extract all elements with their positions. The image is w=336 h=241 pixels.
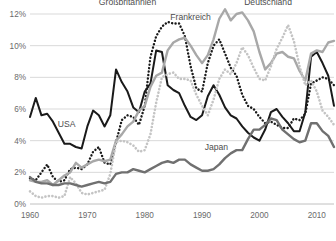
y-tick-label: 6% bbox=[14, 105, 26, 114]
series-label-deutschland: Deutschland bbox=[244, 0, 292, 7]
y-axis-tick-labels: 0%2%4%6%8%10%12% bbox=[10, 10, 26, 209]
series-line-deutschland bbox=[30, 25, 334, 198]
unemployment-rate-chart: 0%2%4%6%8%10%12% 19601970198019902000201… bbox=[0, 0, 336, 241]
series-label-gro-britannien: Großbritannien bbox=[99, 0, 157, 7]
y-tick-label: 12% bbox=[10, 10, 26, 19]
series-label-frankreich: Frankreich bbox=[170, 12, 211, 22]
y-tick-label: 2% bbox=[14, 168, 26, 177]
y-tick-label: 10% bbox=[10, 42, 26, 51]
gridlines bbox=[30, 14, 334, 204]
x-tick-label: 1960 bbox=[21, 211, 40, 220]
chart-canvas: 0%2%4%6%8%10%12% 19601970198019902000201… bbox=[0, 0, 336, 241]
x-tick-label: 1990 bbox=[193, 211, 212, 220]
y-tick-label: 8% bbox=[14, 73, 26, 82]
x-tick-label: 2010 bbox=[308, 211, 327, 220]
x-tick-label: 1970 bbox=[78, 211, 97, 220]
series-label-japan: Japan bbox=[205, 142, 229, 152]
x-tick-label: 1980 bbox=[136, 211, 155, 220]
series-lines bbox=[30, 9, 334, 197]
x-axis-tick-labels: 196019701980199020002010 bbox=[21, 211, 326, 220]
series-label-usa: USA bbox=[58, 119, 76, 129]
y-tick-label: 4% bbox=[14, 137, 26, 146]
x-tick-label: 2000 bbox=[250, 211, 269, 220]
y-tick-label: 0% bbox=[14, 200, 26, 209]
